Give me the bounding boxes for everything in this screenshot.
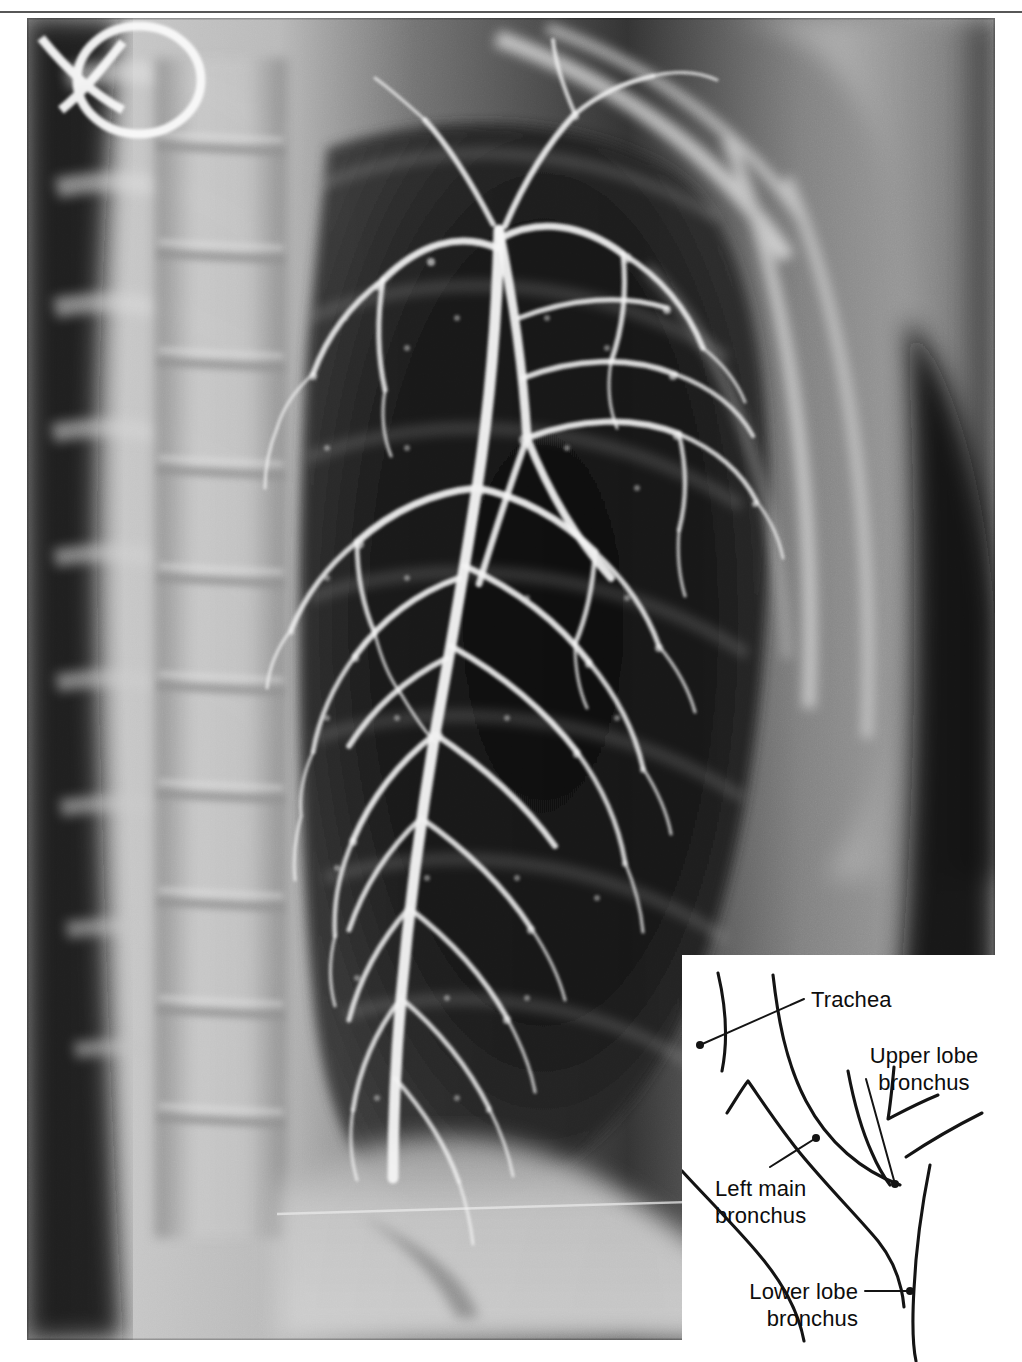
left-main-bronchus-leader-dot — [812, 1134, 820, 1142]
lower-lobe-bronchus-right-path — [913, 1165, 930, 1361]
label-upper-lobe-line1: Upper lobe — [870, 1043, 979, 1068]
trachea-leader-dot — [696, 1041, 704, 1049]
page-top-rule — [0, 11, 1022, 13]
label-lower-lobe-line1: Lower lobe — [749, 1279, 858, 1304]
label-lower-lobe-line2: bronchus — [767, 1306, 858, 1331]
figure-page: Trachea Upper lobe bronchus Left main br… — [0, 0, 1022, 1362]
label-left-main-line2: bronchus — [715, 1203, 806, 1228]
upper-lobe-branch-rightward-path — [906, 1113, 982, 1157]
lower-lobe-bronchus-leader-dot — [906, 1287, 914, 1295]
trachea-leader-line — [700, 999, 804, 1045]
label-left-main-line1: Left main — [715, 1176, 806, 1201]
upper-lobe-bronchus-leader-dot — [891, 1180, 899, 1188]
trachea-left-wall-path — [718, 973, 725, 1071]
label-upper-lobe-line2: bronchus — [878, 1070, 969, 1095]
bronchial-anatomy-inset: Trachea Upper lobe bronchus Left main br… — [682, 955, 1022, 1362]
label-trachea: Trachea — [811, 987, 892, 1012]
